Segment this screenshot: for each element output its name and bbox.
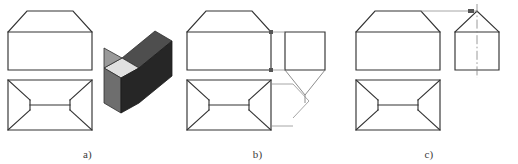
panel-a-drawing (0, 0, 175, 140)
panel-c-front-view (356, 11, 440, 70)
panel-b-label: b) (175, 148, 340, 160)
panel-a-top-view (8, 80, 92, 130)
technical-drawing-figure: a) (0, 0, 518, 164)
panel-c-projection-lines (421, 9, 477, 13)
panel-a: a) (0, 0, 175, 164)
panel-b-drawing (175, 0, 340, 140)
panel-a-label: a) (0, 148, 175, 160)
panel-b-side-view (285, 32, 325, 103)
panel-a-front-view (8, 11, 92, 70)
panel-b-projection-lines (269, 30, 309, 126)
panel-c-drawing (340, 0, 518, 140)
panel-c: c) (340, 0, 518, 164)
panel-c-top-view (356, 80, 440, 130)
panel-c-label: c) (340, 148, 518, 160)
panel-b-front-view (187, 11, 271, 70)
panel-b-top-view (187, 80, 271, 130)
panel-b: b) (175, 0, 340, 164)
panel-a-pictorial-solid (104, 31, 172, 113)
